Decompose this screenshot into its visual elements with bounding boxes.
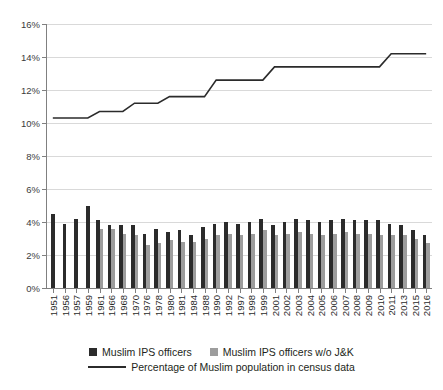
x-axis-tick-label: 2001	[269, 295, 280, 316]
x-axis-tick-mark	[228, 289, 229, 293]
x-axis-tick: 2003	[292, 289, 304, 349]
legend-item-muslim-ips-officers-wo-jk: Muslim IPS officers w/o J&K	[210, 346, 354, 358]
x-axis-tick-label: 1980	[164, 295, 175, 316]
x-axis-tick-label: 2010	[374, 295, 385, 316]
line-series-census	[47, 24, 432, 288]
x-axis-tick-mark	[391, 289, 392, 293]
x-axis-tick: 1984	[187, 289, 199, 349]
x-axis-tick-label: 2009	[362, 295, 373, 316]
x-axis-tick-mark	[170, 289, 171, 293]
x-axis-tick-label: 1959	[82, 295, 93, 316]
x-axis-tick-label: 2002	[281, 295, 292, 316]
x-axis-tick-mark	[216, 289, 217, 293]
x-axis-tick-mark	[240, 289, 241, 293]
x-axis-tick: 2016	[421, 289, 433, 349]
x-axis-tick-label: 2003	[292, 295, 303, 316]
legend-swatch-icon	[89, 348, 97, 356]
x-axis-tick: 2007	[339, 289, 351, 349]
legend-label: Muslim IPS officers	[102, 346, 192, 358]
x-axis-tick-mark	[310, 289, 311, 293]
x-axis-tick: 1959	[82, 289, 94, 349]
x-axis-tick: 2015	[409, 289, 421, 349]
x-axis-tick-label: 1951	[47, 295, 58, 316]
y-axis-tick-label: 4%	[26, 217, 40, 228]
x-axis-tick-label: 1956	[59, 295, 70, 316]
x-axis-tick: 1997	[234, 289, 246, 349]
x-axis-tick-mark	[135, 289, 136, 293]
legend-label: Muslim IPS officers w/o J&K	[223, 346, 354, 358]
x-axis-tick: 1999	[257, 289, 269, 349]
x-axis-tick-mark	[65, 289, 66, 293]
x-axis-tick-label: 2015	[409, 295, 420, 316]
x-axis-tick-mark	[345, 289, 346, 293]
y-axis-tick-label: 0%	[26, 283, 40, 294]
x-axis-tick: 1992	[222, 289, 234, 349]
x-axis-tick-mark	[158, 289, 159, 293]
x-axis-tick: 1980	[164, 289, 176, 349]
y-axis-tick-label: 2%	[26, 250, 40, 261]
x-axis-tick: 2009	[362, 289, 374, 349]
x-axis-tick: 2011	[385, 289, 397, 349]
x-axis-tick-label: 1961	[94, 295, 105, 316]
x-axis-tick-label: 1997	[234, 295, 245, 316]
x-axis-tick-label: 1999	[257, 295, 268, 316]
x-axis-tick-label: 1992	[222, 295, 233, 316]
chart-container: 16%14%12%10%8%6%4%2%0% 19511956195719591…	[0, 0, 443, 390]
x-axis-tick: 2010	[374, 289, 386, 349]
x-axis-tick: 1978	[152, 289, 164, 349]
x-axis-tick-mark	[321, 289, 322, 293]
x-axis-tick-label: 1984	[187, 295, 198, 316]
x-axis-tick-label: 1976	[141, 295, 152, 316]
x-axis-tick-mark	[380, 289, 381, 293]
x-axis-tick: 1970	[129, 289, 141, 349]
x-axis-tick: 2008	[350, 289, 362, 349]
x-axis-tick-label: 2011	[386, 295, 397, 315]
x-axis-tick-mark	[88, 289, 89, 293]
x-axis-tick-mark	[205, 289, 206, 293]
x-axis-tick-mark	[298, 289, 299, 293]
y-axis-tick-label: 16%	[21, 19, 40, 30]
y-axis-tick-label: 6%	[26, 184, 40, 195]
x-axis-tick-label: 1998	[246, 295, 257, 316]
y-axis-tick-label: 12%	[21, 85, 40, 96]
x-axis-tick-label: 2008	[351, 295, 362, 316]
y-axis-labels: 16%14%12%10%8%6%4%2%0%	[0, 0, 40, 300]
x-axis-tick: 1990	[210, 289, 222, 349]
x-axis-tick-label: 1978	[152, 295, 163, 316]
x-axis-tick: 2005	[315, 289, 327, 349]
x-axis-tick-mark	[111, 289, 112, 293]
legend-row-bars: Muslim IPS officers Muslim IPS officers …	[0, 346, 443, 358]
x-axis-tick-mark	[286, 289, 287, 293]
x-axis-tick-label: 2006	[327, 295, 338, 316]
x-axis-tick-label: 2005	[316, 295, 327, 316]
x-axis-tick-mark	[426, 289, 427, 293]
chart-legend: Muslim IPS officers Muslim IPS officers …	[0, 346, 443, 373]
y-axis-tick-label: 10%	[21, 118, 40, 129]
x-axis-tick-mark	[53, 289, 54, 293]
x-axis-tick-label: 2013	[397, 295, 408, 316]
x-axis-tick-mark	[181, 289, 182, 293]
x-axis-tick-mark	[415, 289, 416, 293]
x-axis-tick-label: 1990	[211, 295, 222, 316]
x-axis-tick-mark	[368, 289, 369, 293]
x-axis-tick: 2013	[397, 289, 409, 349]
legend-item-muslim-ips-officers: Muslim IPS officers	[89, 346, 192, 358]
y-axis-tick-label: 14%	[21, 52, 40, 63]
x-axis-tick: 1956	[59, 289, 71, 349]
x-axis-tick-label: 2004	[304, 295, 315, 316]
x-axis-tick-mark	[333, 289, 334, 293]
y-axis-tick-label: 8%	[26, 151, 40, 162]
x-axis-tick-label: 1966	[106, 295, 117, 316]
x-axis-tick: 1998	[245, 289, 257, 349]
x-axis-labels: 1951195619571959196119661968197019761978…	[47, 289, 432, 349]
x-axis-tick-label: 2016	[421, 295, 432, 316]
x-axis-tick: 1961	[94, 289, 106, 349]
legend-item-muslim-population-census: Percentage of Muslim population in censu…	[88, 361, 355, 373]
legend-row-line: Percentage of Muslim population in censu…	[0, 361, 443, 373]
x-axis-tick: 1968	[117, 289, 129, 349]
x-axis-tick-label: 1957	[71, 295, 82, 316]
x-axis-tick: 2006	[327, 289, 339, 349]
x-axis-tick-label: 2007	[339, 295, 350, 316]
legend-swatch-icon	[210, 348, 218, 356]
x-axis-tick-mark	[146, 289, 147, 293]
